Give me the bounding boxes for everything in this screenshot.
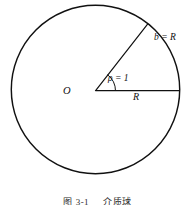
origin-label: O <box>63 86 71 97</box>
figure-caption: 图 3-1介质球 <box>0 195 195 205</box>
dielectric-sphere-figure: O R ρ = 1 b = R 图 3-1介质球 <box>0 0 195 205</box>
figure-caption-title: 介质球 <box>103 197 132 205</box>
rho-value-label: ρ = 1 <box>108 74 128 84</box>
figure-drawing-canvas <box>0 0 195 205</box>
outer-circle-shape <box>11 5 179 173</box>
radius-label: R <box>133 92 139 102</box>
boundary-radius-label: b = R <box>154 33 176 43</box>
figure-caption-number: 图 3-1 <box>63 197 89 205</box>
